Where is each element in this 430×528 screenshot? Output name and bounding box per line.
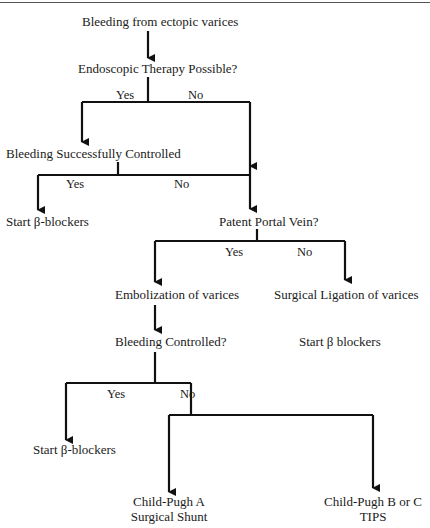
child-pugh-a-label: Child-Pugh A [119, 494, 219, 509]
edge-no-controlled-1: No [174, 177, 189, 191]
edge-no-portal: No [297, 245, 312, 259]
node-start-beta-blockers-3: Start β-blockers [33, 442, 116, 457]
node-endoscopic-question: Endoscopic Therapy Possible? [78, 61, 237, 76]
edge-yes-controlled-2: Yes [107, 387, 125, 401]
node-child-pugh-a: Child-Pugh A Surgical Shunt [119, 494, 219, 524]
edge-no-endoscopic: No [188, 88, 203, 102]
node-patent-portal-vein: Patent Portal Vein? [219, 214, 318, 229]
node-start-beta-blockers-2: Start β blockers [299, 334, 381, 349]
node-start-beta-blockers-1: Start β-blockers [6, 214, 89, 229]
tips-label: TIPS [318, 509, 428, 524]
surgical-shunt-label: Surgical Shunt [119, 509, 219, 524]
node-start: Bleeding from ectopic varices [82, 14, 238, 29]
child-pugh-bc-label: Child-Pugh B or C [318, 494, 428, 509]
edge-yes-controlled-1: Yes [66, 177, 84, 191]
node-bleeding-successfully-controlled: Bleeding Successfully Controlled [6, 146, 181, 161]
node-child-pugh-bc: Child-Pugh B or C TIPS [318, 494, 428, 524]
node-surgical-ligation: Surgical Ligation of varices [274, 287, 419, 302]
edge-yes-portal: Yes [225, 245, 243, 259]
edge-yes-endoscopic: Yes [116, 88, 134, 102]
node-bleeding-controlled-question: Bleeding Controlled? [115, 334, 227, 349]
edge-no-controlled-2: No [180, 387, 195, 401]
node-embolization: Embolization of varices [115, 287, 239, 302]
